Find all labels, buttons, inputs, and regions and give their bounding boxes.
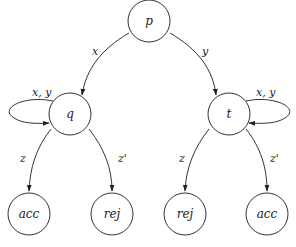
- edge-t-rej: [185, 129, 209, 191]
- node-label-q: q: [66, 107, 74, 121]
- node-label-t-rej: rej: [177, 207, 194, 221]
- node-label-t: t: [227, 107, 232, 121]
- edge-label-q-acc: z: [19, 152, 26, 165]
- edge-label-t-acc: z': [269, 152, 279, 165]
- node-label-p: p: [145, 14, 153, 28]
- edge-label-q-loop: x, y: [32, 86, 52, 99]
- node-t: t: [208, 93, 250, 135]
- node-q: q: [49, 93, 91, 135]
- edge-p-t: [170, 33, 216, 95]
- node-q-rej: rej: [91, 193, 133, 235]
- edge-p-q: [82, 33, 129, 95]
- edge-q-loop: [9, 99, 53, 123]
- edge-label-p-t: y: [201, 45, 209, 58]
- node-p: p: [128, 0, 170, 42]
- edge-label-p-q: x: [92, 45, 99, 58]
- node-label-t-acc: acc: [257, 207, 278, 221]
- state-diagram: x y x, y x, y z z' z z' p q t acc rej re…: [0, 0, 296, 247]
- node-t-rej: rej: [164, 193, 206, 235]
- edge-label-t-rej: z: [178, 152, 185, 165]
- edge-q-rej: [89, 129, 112, 191]
- edge-label-t-loop: x, y: [256, 86, 276, 99]
- edge-label-q-rej: z': [117, 152, 127, 165]
- node-label-q-rej: rej: [104, 207, 121, 221]
- edge-t-acc: [246, 129, 267, 191]
- edge-t-loop: [246, 99, 290, 123]
- edge-q-acc: [29, 129, 51, 191]
- node-label-q-acc: acc: [19, 207, 40, 221]
- node-q-acc: acc: [8, 193, 50, 235]
- node-t-acc: acc: [246, 193, 288, 235]
